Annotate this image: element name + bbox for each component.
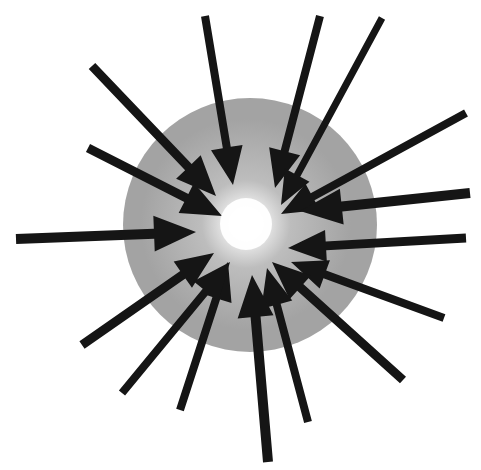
focal-highlight: [220, 198, 272, 250]
radial-arrows-figure: [0, 0, 481, 470]
figure-root: [0, 0, 481, 470]
